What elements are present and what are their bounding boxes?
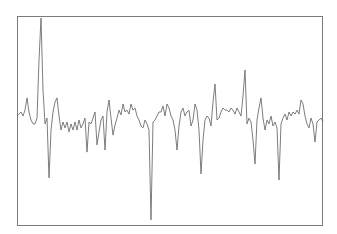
line-chart: [0, 0, 337, 234]
